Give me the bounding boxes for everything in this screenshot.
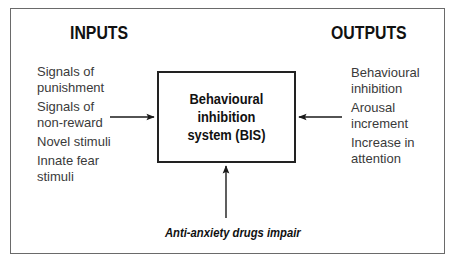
bis-label: Behavioural inhibition system (BIS) (187, 90, 265, 144)
input-novel-stimuli: Novel stimuli (37, 134, 137, 150)
input-signals-of-punishment: Signals of punishment (37, 64, 137, 96)
outputs-heading: OUTPUTS (331, 23, 407, 44)
anti-anxiety-caption: Anti-anxiety drugs impair (165, 226, 291, 240)
output-arousal-increment: Arousal increment (351, 100, 446, 132)
output-increase-in-attention: Increase in attention (351, 135, 446, 167)
output-behavioural-inhibition: Behavioural inhibition (351, 65, 446, 97)
input-signals-of-non-reward: Signals of non-reward (37, 99, 137, 131)
inputs-list: Signals of punishment Signals of non-rew… (37, 64, 137, 188)
input-innate-fear-stimuli: Innate fear stimuli (37, 153, 137, 185)
bis-box: Behavioural inhibition system (BIS) (157, 71, 296, 163)
inputs-heading: INPUTS (70, 23, 128, 44)
outputs-list: Behavioural inhibition Arousal increment… (351, 65, 446, 170)
